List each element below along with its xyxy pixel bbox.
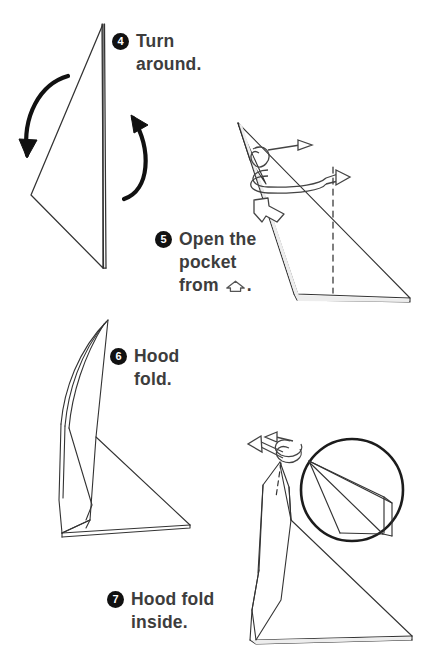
step5-rotate-around-arrow (251, 170, 350, 193)
step7-bottom-edge (256, 636, 412, 640)
step6-body-fold (62, 520, 90, 533)
step6-left-edge-2 (63, 426, 65, 498)
rotate-arrow-left (19, 76, 68, 158)
step7-inner-crease-2 (289, 487, 291, 520)
step-4-caption: 4 Turn around. (112, 30, 202, 76)
numbered-bullet-5: 5 (155, 231, 172, 248)
step5-spike (238, 123, 266, 184)
step7-left-body (258, 485, 263, 573)
step-6-caption: 6 Hood fold. (110, 345, 180, 391)
step-5-text: Open the pocket from . (179, 228, 256, 299)
inset-line-b (309, 461, 384, 533)
step4-spine-outer (105, 24, 107, 268)
numbered-bullet-6: 6 (110, 348, 127, 365)
step5-band-fill (295, 295, 409, 302)
step5-main-triangle (238, 123, 410, 298)
step7-inner-crease (256, 465, 291, 640)
numbered-bullet-7: 7 (107, 591, 124, 608)
step-5-text-after: . (247, 275, 252, 295)
step6-left-edge (59, 424, 62, 533)
step7-head-left (252, 462, 280, 610)
step7-bottom-band (250, 640, 412, 644)
step-7-text: Hood fold inside. (131, 588, 214, 634)
turn-around-diagram (0, 0, 430, 656)
step6-hood-inner (69, 324, 104, 428)
open-pocket-diagram (0, 0, 430, 656)
step7-magnifier-inset (301, 439, 403, 541)
step6-hood-outer (61, 320, 108, 424)
step6-right-contour (62, 320, 108, 533)
step5-layer-band-2 (297, 294, 300, 299)
step7-rotate-arrow (248, 432, 302, 462)
open-pocket-arrow-icon (225, 276, 246, 299)
origami-instruction-page: 4 Turn around. 5 Open the pocket from . … (0, 0, 430, 656)
inset-line-c (309, 461, 340, 533)
step7-band-fill (251, 637, 411, 644)
step7-head-right (280, 462, 291, 520)
inset-line-a (309, 461, 392, 503)
rotate-arrow-right (124, 115, 148, 199)
step-6-text: Hood fold. (134, 345, 180, 391)
inset-line-f (383, 534, 392, 536)
step-5-caption: 5 Open the pocket from . (155, 228, 256, 299)
step7-dashed-fold (276, 463, 281, 497)
numbered-bullet-4: 4 (112, 33, 129, 50)
step4-spine-inner (102, 24, 104, 268)
inset-line-e (384, 497, 392, 536)
step5-turn-arrow-small (251, 140, 312, 167)
step7-tail-top (291, 520, 412, 636)
step7-left-body-2 (252, 570, 259, 640)
step5-open-pocket-arrow (254, 198, 284, 222)
step6-tail-bottom-2 (62, 525, 190, 537)
step4-paper-outline (31, 24, 103, 268)
hood-fold-diagram (0, 0, 430, 656)
hood-fold-inside-diagram (0, 0, 430, 656)
step-4-text: Turn around. (136, 30, 202, 76)
step-7-caption: 7 Hood fold inside. (107, 588, 214, 634)
step7-left-body-3 (250, 610, 252, 640)
step6-inner-diagonal (69, 428, 92, 520)
step6-tail-fold (86, 520, 90, 528)
step6-tail-bottom (62, 525, 190, 533)
inset-line-d (309, 462, 383, 534)
step6-hood-mid (65, 322, 106, 426)
inset-line-g (340, 533, 383, 534)
step5-layer-band (294, 294, 410, 302)
step6-tail-top (96, 437, 190, 525)
